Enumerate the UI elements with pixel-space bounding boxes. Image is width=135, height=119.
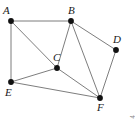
vertex-label-B: B [68,5,75,16]
graph-edge-C-F [57,68,100,98]
graph-edge-D-F [100,50,116,98]
graph-figure: ABCDEF © Cengage Learning 2014 [0,0,135,119]
graph-vertex-C [54,65,60,71]
vertex-label-E: E [5,87,12,98]
graph-edge-B-F [71,21,100,98]
vertex-label-A: A [3,5,10,16]
graph-vertex-E [8,79,14,85]
graph-edge-B-D [71,21,116,50]
copyright-text: © Cengage Learning 2014 [129,115,135,119]
graph-edge-C-E [11,68,57,82]
graph-vertex-D [113,47,119,53]
graph-vertex-B [68,18,74,24]
graph-edge-A-C [11,21,57,68]
graph-canvas [0,0,135,119]
vertex-label-C: C [53,52,60,63]
graph-vertex-A [8,18,14,24]
vertex-label-F: F [97,102,104,113]
graph-edge-E-F [11,82,100,98]
graph-edges [11,21,116,98]
graph-nodes [8,18,119,101]
copyright-attribution: © Cengage Learning 2014 [129,115,135,119]
vertex-label-D: D [113,34,121,45]
